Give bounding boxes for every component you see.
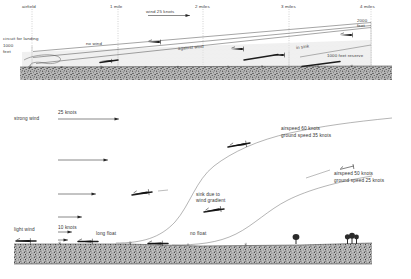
annotation-leader-lines xyxy=(158,170,330,191)
slow-groundspeed-label: ground speed 25 knots xyxy=(334,178,384,184)
wind-arrow-level-6 xyxy=(58,238,68,241)
sailplane-long-float xyxy=(78,239,93,245)
sink-gradient-label-line2: wind gradient xyxy=(196,198,225,204)
long-float-label: long float xyxy=(96,231,116,237)
bush-icon xyxy=(293,234,300,244)
fast-groundspeed-label: ground speed 35 knots xyxy=(281,133,331,139)
light-wind-label: light wind xyxy=(14,227,35,233)
figure-root: airfield 1 mile 2 miles 3 miles 4 miles … xyxy=(0,0,411,279)
wind-arrow-level-1 xyxy=(58,117,119,120)
top-wind-speed-label: 25 knots xyxy=(58,110,77,116)
sink-gradient-label-line1: sink due to xyxy=(196,192,220,198)
fast-airspeed-label: airspeed 60 knots xyxy=(281,126,320,132)
lower-ground xyxy=(14,243,372,264)
wind-arrow-level-5 xyxy=(58,230,72,233)
no-float-label: no float xyxy=(190,231,206,237)
wind-gradient-arrows[interactable] xyxy=(58,117,119,241)
lower-diagram-graphics xyxy=(0,0,411,279)
slow-airspeed-label: airspeed 50 knots xyxy=(334,171,373,177)
sailplane-fast-approach xyxy=(229,141,248,150)
wind-arrow-level-4 xyxy=(58,215,82,218)
sailplane-slow-approach xyxy=(205,206,222,214)
sailplane-light-wind-touchdown xyxy=(16,238,31,244)
wind-arrow-level-2 xyxy=(58,158,108,161)
tree-cluster-icon xyxy=(345,233,359,244)
strong-wind-label: strong wind xyxy=(14,116,39,122)
sailplane-sink-gradient xyxy=(133,189,150,197)
bottom-wind-speed-label: 10 knots xyxy=(58,225,77,231)
wind-arrow-level-3 xyxy=(58,192,96,195)
